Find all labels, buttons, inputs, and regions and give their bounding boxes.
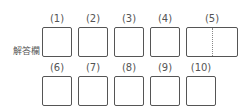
answer-box-4[interactable] [150,27,180,57]
answer-box-1[interactable] [42,27,72,57]
answer-box-5[interactable] [186,27,238,57]
question-number-6: (6) [37,62,77,74]
question-number-4: (4) [145,13,185,25]
answer-box-2[interactable] [78,27,108,57]
question-number-10: (10) [181,62,221,74]
answer-box-10[interactable] [186,76,216,106]
question-number-3: (3) [109,13,149,25]
question-number-7: (7) [73,62,113,74]
answer-box-7[interactable] [78,76,108,106]
question-number-2: (2) [73,13,113,25]
answer-column-label: 解答欄 [13,46,40,56]
question-number-1: (1) [37,13,77,25]
dotted-divider [212,28,213,56]
question-number-8: (8) [109,62,149,74]
answer-box-8[interactable] [114,76,144,106]
question-number-5: (5) [192,13,232,25]
answer-box-3[interactable] [114,27,144,57]
question-number-9: (9) [145,62,185,74]
answer-box-9[interactable] [150,76,180,106]
answer-box-6[interactable] [42,76,72,106]
